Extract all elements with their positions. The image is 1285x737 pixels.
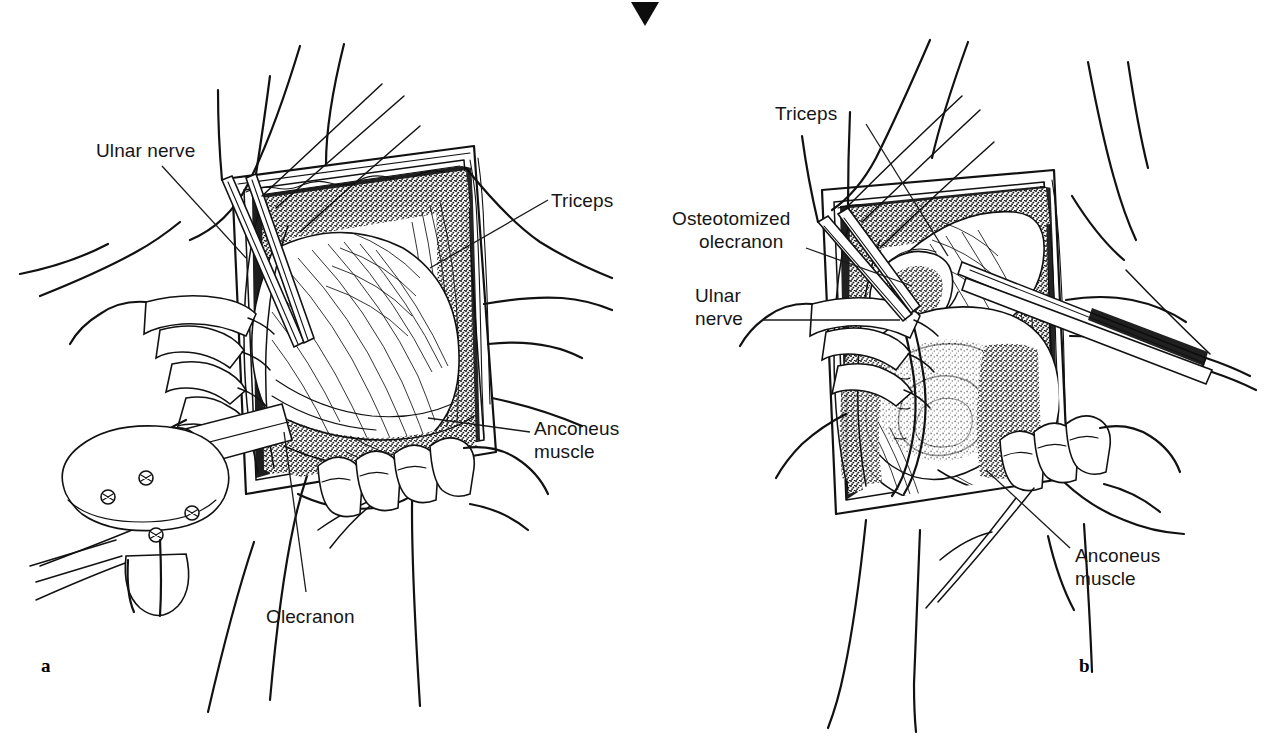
label-b-ulnar-line2: nerve [695, 307, 743, 330]
panel-letter-b: b [1079, 655, 1090, 677]
label-b-osteotomized-line1: Osteotomized [672, 207, 790, 230]
panel-letter-a: a [41, 655, 51, 677]
panel-a-positioning-clamp [30, 404, 292, 616]
label-a-anconeus-line1: Anconeus [534, 417, 619, 440]
illustration-canvas [0, 0, 1285, 737]
label-b-triceps: Triceps [775, 102, 837, 125]
label-b-anconeus-line2: muscle [1075, 567, 1136, 590]
panel-b-illustration [740, 40, 1256, 732]
label-a-triceps: Triceps [551, 189, 613, 212]
label-b-ulnar-line1: Ulnar [695, 284, 741, 307]
label-a-anconeus-line2: muscle [534, 440, 595, 463]
down-triangle-marker [631, 2, 659, 26]
label-b-anconeus-line1: Anconeus [1075, 544, 1160, 567]
figure-root: Ulnar nerve Triceps Anconeus muscle Olec… [0, 0, 1285, 737]
label-b-osteotomized-line2: olecranon [699, 230, 783, 253]
label-a-olecranon: Olecranon [266, 605, 355, 628]
label-a-ulnar-nerve: Ulnar nerve [96, 139, 195, 162]
